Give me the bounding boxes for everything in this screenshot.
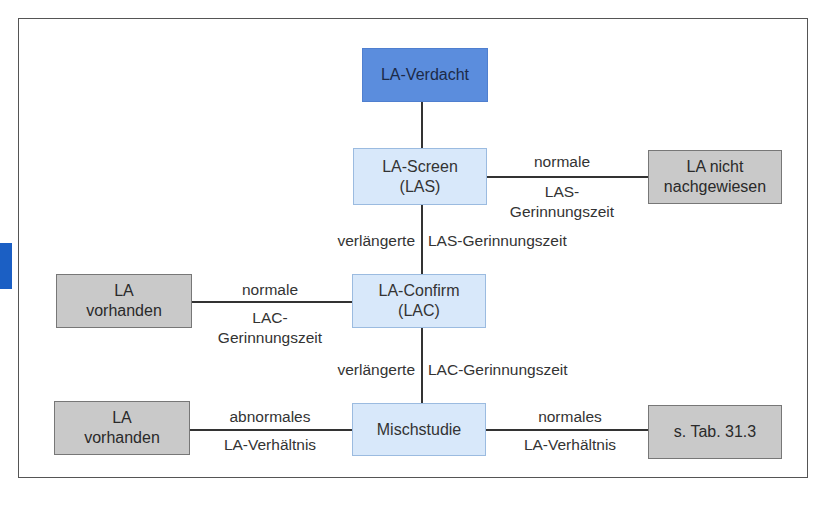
label-mix-abnormal-top: abnormales xyxy=(200,407,340,427)
label-mix-normal-top: normales xyxy=(500,407,640,427)
label-confirm-normal-top: normale xyxy=(205,280,335,300)
connector-confirm-mixing xyxy=(421,328,423,404)
node-la-confirm: LA-Confirm (LAC) xyxy=(352,274,486,328)
label-confirm-prolonged-left: verlängerte xyxy=(300,360,415,380)
connector-suspicion-screen xyxy=(421,101,423,148)
label-mix-abnormal-bottom: LA-Verhältnis xyxy=(200,435,340,455)
label-screen-prolonged-right: LAS-Gerinnungszeit xyxy=(428,231,608,251)
node-see-table: s. Tab. 31.3 xyxy=(648,405,782,459)
label-screen-normal-top: normale xyxy=(497,152,627,172)
label-screen-normal-bottom: LAS- Gerinnungszeit xyxy=(497,182,627,222)
label-screen-prolonged-left: verlängerte xyxy=(300,231,415,251)
connector-screen-not-detected xyxy=(486,176,649,178)
label-confirm-normal-bottom: LAC- Gerinnungszeit xyxy=(205,308,335,348)
connector-mixing-see-table xyxy=(485,429,648,431)
label-mix-normal-bottom: LA-Verhältnis xyxy=(500,435,640,455)
label-confirm-prolonged-right: LAC-Gerinnungszeit xyxy=(428,360,608,380)
node-la-present-2: LA vorhanden xyxy=(54,401,190,455)
node-la-screen: LA-Screen (LAS) xyxy=(353,148,487,205)
node-la-present-1: LA vorhanden xyxy=(56,274,192,328)
side-tab-marker xyxy=(0,243,12,289)
connector-confirm-present xyxy=(192,301,354,303)
node-la-not-detected: LA nicht nachgewiesen xyxy=(648,150,782,204)
connector-mixing-present xyxy=(189,429,352,431)
connector-screen-confirm xyxy=(421,205,423,275)
node-mixing-study: Mischstudie xyxy=(352,403,486,456)
node-la-suspicion: LA-Verdacht xyxy=(362,48,488,102)
